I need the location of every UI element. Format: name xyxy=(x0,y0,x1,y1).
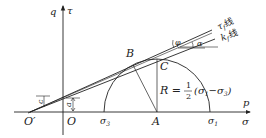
radius-formula: R = 1 2 (σ1−σ3) xyxy=(159,81,232,101)
svg-text:1: 1 xyxy=(186,81,191,90)
point-a: A xyxy=(151,115,160,128)
svg-text:R =: R = xyxy=(159,84,181,97)
tau-axis-label: τ xyxy=(67,5,73,16)
c-intercept-label: c xyxy=(36,99,45,104)
sigma-axis-label: σ xyxy=(242,116,250,127)
point-c: C xyxy=(160,60,169,73)
sigma3-label: σ3 xyxy=(100,116,110,127)
tau-f-envelope-line-2 xyxy=(30,33,212,112)
point-o-prime: O′ xyxy=(24,115,36,128)
a-intercept-label: a xyxy=(64,102,73,107)
phi-angle-label: φ xyxy=(175,38,181,47)
q-axis-label: q xyxy=(50,6,56,17)
radius-ab xyxy=(133,65,157,112)
svg-text:2: 2 xyxy=(186,92,191,101)
alpha-angle-label: α xyxy=(197,39,203,48)
p-axis-label: p xyxy=(243,97,250,108)
svg-text:(σ1−σ3): (σ1−σ3) xyxy=(194,85,232,97)
sigma1-label: σ1 xyxy=(208,116,218,127)
k-f-line xyxy=(30,39,215,112)
point-b: B xyxy=(125,47,134,60)
mohr-diagram: q τ p σ O′ O A B C σ3 σ1 τf线 kf线 φ α c a… xyxy=(0,0,266,138)
point-o: O xyxy=(67,115,76,128)
tau-f-envelope-line xyxy=(28,30,212,113)
alpha-arc xyxy=(192,42,193,47)
